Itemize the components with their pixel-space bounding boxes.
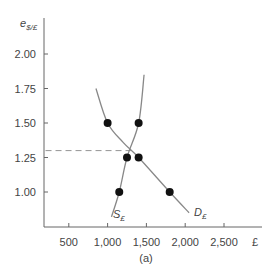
figure-caption: (a) [139,252,152,264]
y-ticks: 1.001.251.501.752.00 [15,48,48,198]
y-tick-label: 1.75 [15,83,36,95]
data-point [115,188,123,196]
data-point [104,119,112,127]
data-point [123,154,131,162]
x-tick-label: 2,500 [210,236,238,248]
x-unit-label: £ [252,236,258,248]
y-tick-label: 2.00 [15,48,36,60]
x-tick-label: 500 [60,236,78,248]
data-point [135,119,143,127]
data-point [135,154,143,162]
x-tick-label: 2,000 [171,236,199,248]
x-tick-label: 1,000 [94,236,122,248]
x-tick-label: 1,500 [133,236,161,248]
y-tick-label: 1.25 [15,152,36,164]
y-tick-label: 1.00 [15,186,36,198]
y-tick-label: 1.50 [15,117,36,129]
supply-curve-label: S£ [113,208,125,223]
chart: e$/£ 1.001.251.501.752.00 5001,0001,5002… [0,0,274,278]
supply-curve [111,75,144,217]
demand-curve-label: D£ [194,206,207,221]
y-axis-label: e$/£ [20,17,38,32]
data-point [166,188,174,196]
